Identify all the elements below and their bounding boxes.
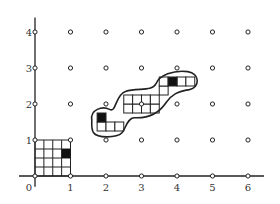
lattice-point bbox=[33, 174, 37, 178]
lattice-point bbox=[246, 138, 250, 142]
white-cell bbox=[97, 122, 106, 131]
x-tick-label: 6 bbox=[245, 182, 251, 193]
lattice-point bbox=[68, 102, 72, 106]
lattice-point bbox=[246, 102, 250, 106]
lattice-point bbox=[139, 174, 143, 178]
lattice-point bbox=[175, 174, 179, 178]
lattice-point bbox=[175, 138, 179, 142]
x-tick-label: 1 bbox=[67, 182, 73, 193]
lattice-point bbox=[210, 30, 214, 34]
lattice-point bbox=[33, 138, 37, 142]
blob-polyomino bbox=[97, 77, 195, 131]
lattice-point bbox=[33, 30, 37, 34]
lattice-point bbox=[104, 30, 108, 34]
lattice-point bbox=[246, 174, 250, 178]
lattice-point bbox=[210, 138, 214, 142]
black-cell bbox=[97, 113, 106, 122]
x-tick-label: 4 bbox=[174, 182, 180, 193]
lattice-point bbox=[246, 30, 250, 34]
white-cell bbox=[124, 104, 133, 113]
lattice-point bbox=[68, 66, 72, 70]
white-cell bbox=[115, 122, 124, 131]
x-tick-label: 3 bbox=[138, 182, 144, 193]
lattice-point bbox=[175, 30, 179, 34]
lattice-point bbox=[33, 66, 37, 70]
lattice-point bbox=[246, 66, 250, 70]
white-cell bbox=[150, 95, 159, 104]
lattice-point bbox=[139, 66, 143, 70]
white-cell bbox=[106, 122, 115, 131]
y-tick-label: 1 bbox=[26, 135, 32, 146]
x-tick-label: 2 bbox=[103, 182, 109, 193]
black-cell bbox=[168, 77, 177, 86]
white-cell bbox=[186, 77, 195, 86]
x-tick-label: 5 bbox=[209, 182, 215, 193]
y-tick-label: 3 bbox=[26, 63, 32, 74]
lattice-point bbox=[210, 102, 214, 106]
lattice-diagram: 01234561234 bbox=[0, 0, 280, 204]
lattice-point bbox=[210, 174, 214, 178]
lattice-point bbox=[139, 138, 143, 142]
white-cell bbox=[159, 86, 168, 95]
lattice-point bbox=[33, 102, 37, 106]
lattice-point bbox=[104, 174, 108, 178]
x-tick-label: 0 bbox=[26, 182, 32, 193]
white-cell bbox=[124, 95, 133, 104]
lattice-point bbox=[68, 30, 72, 34]
black-cell bbox=[62, 149, 71, 158]
lattice-point bbox=[139, 102, 143, 106]
lattice-point bbox=[210, 66, 214, 70]
lattice-point bbox=[175, 102, 179, 106]
lattice-point bbox=[68, 174, 72, 178]
lattice-point bbox=[104, 102, 108, 106]
unit-square-grid bbox=[35, 140, 71, 176]
lattice-point bbox=[175, 66, 179, 70]
lattice-point bbox=[68, 138, 72, 142]
lattice-point bbox=[139, 30, 143, 34]
y-tick-label: 2 bbox=[26, 99, 32, 110]
lattice-point bbox=[104, 138, 108, 142]
y-tick-label: 4 bbox=[26, 27, 32, 38]
lattice-point bbox=[104, 66, 108, 70]
white-cell bbox=[177, 77, 186, 86]
